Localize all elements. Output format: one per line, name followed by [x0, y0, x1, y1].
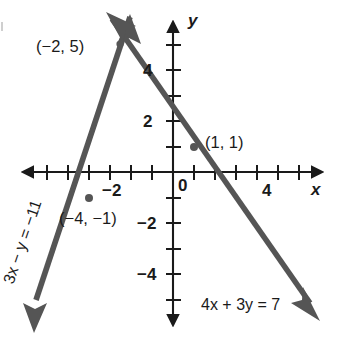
x-tick-label-minus2: −2 — [102, 182, 121, 199]
y-axis-label: y — [188, 12, 197, 29]
arrowhead-down-right — [291, 287, 320, 321]
annotation-point-minus2-5: (−2, 5) — [36, 38, 84, 55]
coordinate-plane-figure: y x 0 −2 4 4 2 −2 −4 (−2, 5) (−4, −1) (1… — [0, 0, 346, 340]
y-axis — [166, 22, 181, 325]
y-tick-label-4: 4 — [143, 62, 152, 79]
x-axis-label: x — [311, 181, 320, 198]
point-minus4-minus1 — [85, 194, 93, 202]
y-tick-label-minus2: −2 — [137, 215, 156, 232]
point-1-1 — [190, 143, 198, 151]
origin-label: 0 — [178, 177, 187, 194]
y-tick-label-2: 2 — [143, 113, 152, 130]
point-minus2-5 — [116, 40, 123, 47]
arrowhead-down-left — [23, 303, 47, 333]
x-tick-label-4: 4 — [262, 182, 271, 199]
annotation-point-minus4-minus1: (−4, −1) — [59, 210, 117, 227]
line-3x-minus-y-equals-minus-11 — [23, 14, 141, 333]
annotation-equation-shallow: 4x + 3y = 7 — [201, 297, 280, 313]
y-tick-label-minus4: −4 — [137, 266, 156, 283]
annotation-point-1-1: (1, 1) — [205, 134, 244, 151]
